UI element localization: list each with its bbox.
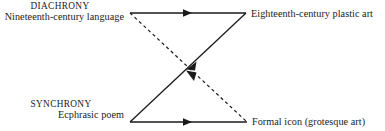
- arrowhead-bottom-horizontal: [183, 118, 192, 126]
- arrowhead-rising-diagonal: [187, 62, 197, 71]
- arrowhead-falling-diagonal: [186, 71, 197, 82]
- node-label-bottom-right: Formal icon (grotesque art): [252, 116, 365, 127]
- edge-rising-diagonal: [130, 13, 246, 122]
- node-text-eighteenth-century-plastic-art: Eighteenth-century plastic art: [251, 8, 373, 19]
- node-text-ecphrasic-poem: Ecphrasic poem: [0, 109, 128, 120]
- node-label-top-left: DIACHRONY Nineteenth-century language: [0, 1, 128, 22]
- arrowhead-top-horizontal: [183, 9, 192, 17]
- node-label-bottom-left: SYNCHRONY Ecphrasic poem: [0, 99, 128, 120]
- node-label-top-right: Eighteenth-century plastic art: [251, 8, 373, 19]
- axis-term-diachrony: DIACHRONY: [0, 1, 128, 11]
- node-text-formal-icon-grotesque-art: Formal icon (grotesque art): [252, 116, 365, 127]
- figure-root: DIACHRONY Nineteenth-century language Ei…: [0, 0, 385, 131]
- axis-term-synchrony: SYNCHRONY: [0, 99, 128, 109]
- node-text-nineteenth-century-language: Nineteenth-century language: [0, 11, 128, 22]
